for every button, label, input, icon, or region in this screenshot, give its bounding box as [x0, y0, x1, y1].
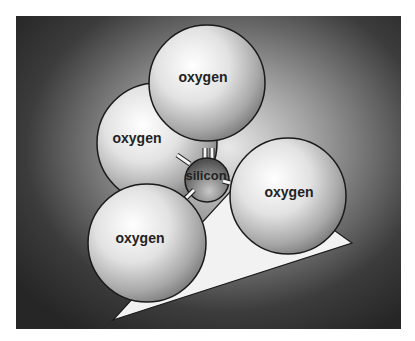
oxygen-atom-right: oxygen — [230, 138, 346, 254]
oxygen-label: oxygen — [264, 184, 313, 200]
oxygen-atom-top: oxygen — [149, 25, 265, 141]
oxygen-label: oxygen — [178, 69, 227, 85]
silicon-label: silicon — [185, 168, 226, 183]
silica-tetrahedron-diagram: oxygen silicon oxygen oxygen oxygen — [0, 0, 415, 341]
oxygen-atom-bottom: oxygen — [88, 184, 206, 302]
oxygen-label: oxygen — [115, 230, 164, 246]
oxygen-label: oxygen — [112, 130, 161, 146]
